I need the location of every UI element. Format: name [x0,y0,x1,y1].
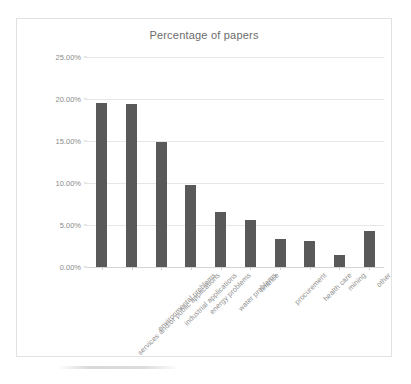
bar[interactable] [126,104,137,267]
bar[interactable] [304,241,315,267]
bar[interactable] [364,231,375,267]
bar[interactable] [96,103,107,267]
x-tick-mark [280,267,281,270]
x-tick-mark [132,267,133,270]
y-axis-tick-label: 25.00% [56,53,81,62]
x-tick-mark [191,267,192,270]
x-axis-label-6: finance [261,270,284,293]
y-axis-tick-label: 10.00% [56,179,81,188]
bar[interactable] [215,212,226,267]
bar[interactable] [334,255,345,267]
x-tick-mark [339,267,340,270]
y-axis-tick-label: 15.00% [56,137,81,146]
x-axis-tick-label: finance [258,271,281,294]
x-axis-tick-label: other [375,271,393,289]
y-axis-tick-label: 5.00% [60,221,81,230]
scan-artifact [58,366,180,369]
bar[interactable] [156,142,167,267]
bar[interactable] [185,185,196,267]
y-axis-tick-label: 0.00% [60,263,81,272]
bar[interactable] [275,239,286,267]
x-axis-tick-label: procurement [293,271,329,307]
chart-container: Percentage of papers 0.00%5.00%10.00%15.… [16,18,392,357]
x-tick-mark [102,267,103,270]
x-tick-mark [369,267,370,270]
plot-area: 0.00%5.00%10.00%15.00%20.00%25.00% [87,57,384,267]
y-axis-tick-label: 20.00% [56,95,81,104]
x-axis-label-10: other [378,270,396,288]
bar[interactable] [245,220,256,267]
x-tick-mark [221,267,222,270]
chart-title: Percentage of papers [17,29,391,41]
x-tick-mark [310,267,311,270]
x-tick-mark [161,267,162,270]
bar-series [87,57,384,267]
